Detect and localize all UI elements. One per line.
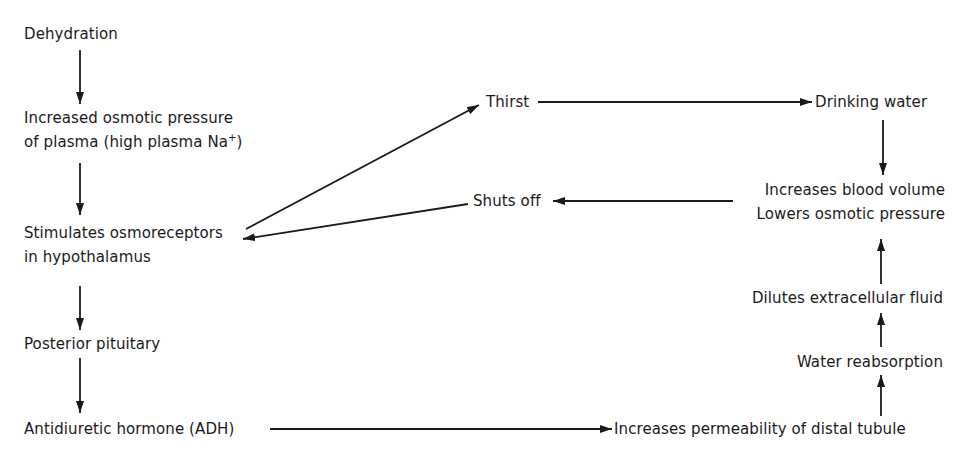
node-stimulates-osmoreceptors: Stimulates osmoreceptors in hypothalamus [24,221,223,269]
node-shuts-off: Shuts off [473,189,541,213]
node-osmotic-line2: of plasma (high plasma Na+) [24,130,242,154]
arrow-osmoreceptors-to-thirst [246,105,479,229]
node-drinking-water: Drinking water [815,90,927,114]
node-osmotic-line2-text: of plasma (high plasma Na [24,133,228,151]
node-permeability-label: Increases permeability of distal tubule [614,420,906,438]
node-osmoreceptors-line2: in hypothalamus [24,245,223,269]
node-adh-label: Antidiuretic hormone (ADH) [24,420,234,438]
node-posterior-pituitary-label: Posterior pituitary [24,335,160,353]
node-dilutes-extracellular-fluid: Dilutes extracellular fluid [752,286,943,310]
node-dehydration: Dehydration [24,22,118,46]
node-osmotic-line1: Increased osmotic pressure [24,106,242,130]
node-posterior-pituitary: Posterior pituitary [24,332,160,356]
node-blood-volume-line2: Lowers osmotic pressure [757,202,945,226]
node-water-reabsorption: Water reabsorption [797,350,943,374]
node-thirst-label: Thirst [486,93,529,111]
node-osmotic-close-paren: ) [236,133,242,151]
node-water-reabsorption-label: Water reabsorption [797,353,943,371]
arrow-shuts-off-to-osmoreceptors [243,204,468,239]
node-increased-osmotic-pressure: Increased osmotic pressure of plasma (hi… [24,106,242,154]
node-increases-blood-volume: Increases blood volume Lowers osmotic pr… [757,178,945,226]
node-osmoreceptors-line1: Stimulates osmoreceptors [24,221,223,245]
node-adh: Antidiuretic hormone (ADH) [24,417,234,441]
node-dilutes-label: Dilutes extracellular fluid [752,289,943,307]
node-drinking-water-label: Drinking water [815,93,927,111]
node-shuts-off-label: Shuts off [473,192,541,210]
node-increases-permeability: Increases permeability of distal tubule [614,417,906,441]
node-dehydration-label: Dehydration [24,25,118,43]
node-blood-volume-line1: Increases blood volume [757,178,945,202]
node-thirst: Thirst [486,90,529,114]
